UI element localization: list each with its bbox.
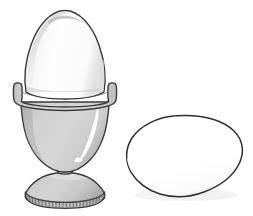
egg-illustration-svg <box>0 0 253 216</box>
illustration-canvas: Egg in egg cup with a loose egg <box>0 0 253 216</box>
